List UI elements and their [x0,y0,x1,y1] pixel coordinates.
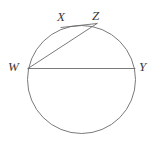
geometry-canvas [0,0,160,144]
geometry-figure: W X Z Y [0,0,160,144]
circle-outline [28,26,136,134]
segment-wz-chord [28,24,97,69]
point-label-w: W [8,60,19,73]
point-label-y: Y [139,60,146,73]
point-label-x: X [57,10,65,23]
point-label-z: Z [92,9,99,22]
